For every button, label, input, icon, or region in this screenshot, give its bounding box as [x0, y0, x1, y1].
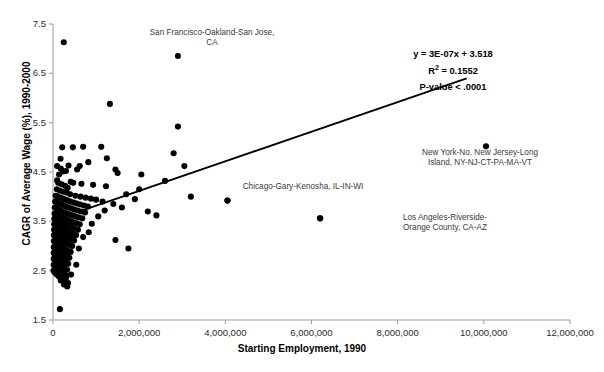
data-point	[61, 281, 67, 287]
data-point	[103, 183, 109, 189]
data-point	[88, 196, 94, 202]
data-point	[75, 227, 81, 233]
data-point	[188, 194, 194, 200]
data-point	[70, 180, 76, 186]
point-annotation-label: Chicago-Gary-Kenosha, IL-IN-WI	[228, 182, 378, 192]
data-point	[85, 159, 91, 165]
x-tick-label: 12,000,000	[525, 327, 604, 338]
data-point	[145, 208, 151, 214]
data-point	[175, 124, 181, 130]
x-tick-label: 4,000,000	[180, 327, 270, 338]
data-point	[112, 237, 118, 243]
y-tick-label: 5.5	[10, 117, 46, 128]
y-tick-label: 4.5	[10, 166, 46, 177]
data-point	[98, 144, 104, 150]
data-point	[171, 150, 177, 156]
x-tick-label: 0	[8, 327, 98, 338]
annotated-data-point	[224, 198, 230, 204]
regression-stats-block: y = 3E-07x + 3.518 R2 = 0.1552 P-value <…	[368, 48, 538, 94]
data-point	[104, 155, 110, 161]
data-point	[175, 53, 181, 59]
data-point	[107, 101, 113, 107]
data-point	[181, 163, 187, 169]
data-point	[56, 171, 62, 177]
data-point	[57, 306, 63, 312]
data-point	[132, 196, 138, 202]
data-point	[74, 166, 80, 172]
r-squared-label: R2 = 0.1552	[368, 61, 538, 78]
annotated-data-point	[317, 215, 323, 221]
data-point	[57, 156, 63, 162]
data-point	[95, 213, 101, 219]
data-point	[76, 245, 82, 251]
data-point	[61, 39, 67, 45]
data-point	[54, 163, 60, 169]
data-point	[80, 144, 86, 150]
data-point	[83, 195, 89, 201]
data-point	[93, 197, 99, 203]
data-point	[115, 170, 121, 176]
x-tick-label: 8,000,000	[353, 327, 443, 338]
point-annotation-label: Los Angeles-Riverside-Orange County, CA-…	[390, 213, 500, 233]
scatter-chart-figure: CAGR of Average Wage (%), 1990-2000 Star…	[0, 0, 604, 372]
data-point	[73, 262, 79, 268]
annotation-leader-dots-group	[224, 198, 323, 222]
data-point	[80, 234, 86, 240]
data-point	[71, 238, 77, 244]
y-tick-label: 1.5	[10, 314, 46, 325]
data-point	[125, 245, 131, 251]
data-point	[138, 171, 144, 177]
data-point	[59, 144, 65, 150]
data-point	[69, 243, 75, 249]
y-tick-label: 2.5	[10, 265, 46, 276]
data-point	[78, 181, 84, 187]
y-tick-label: 3.5	[10, 215, 46, 226]
data-point	[90, 182, 96, 188]
data-point	[68, 272, 74, 278]
data-point	[70, 144, 76, 150]
data-point	[79, 215, 85, 221]
x-axis-title: Starting Employment, 1990	[0, 343, 604, 354]
p-value-label: P-value < .0001	[368, 81, 538, 94]
data-point	[78, 194, 84, 200]
data-point	[72, 193, 78, 199]
data-point	[65, 163, 71, 169]
point-annotation-label: New York-No. New Jersey-Long Island, NY-…	[418, 148, 542, 168]
regression-equation-label: y = 3E-07x + 3.518	[368, 48, 538, 61]
x-tick-label: 6,000,000	[267, 327, 357, 338]
data-point	[119, 204, 125, 210]
y-tick-label: 6.5	[10, 67, 46, 78]
data-point	[73, 232, 79, 238]
data-point	[110, 201, 116, 207]
data-point	[102, 207, 108, 213]
data-point	[86, 229, 92, 235]
data-point	[67, 191, 73, 197]
x-tick-label: 10,000,000	[439, 327, 529, 338]
y-tick-label: 7.5	[10, 18, 46, 29]
point-annotation-label: San Francisco-Oakland-San Jose, CA	[148, 28, 276, 48]
data-point	[77, 221, 83, 227]
data-point	[89, 221, 95, 227]
data-point	[153, 212, 159, 218]
x-tick-label: 2,000,000	[94, 327, 184, 338]
